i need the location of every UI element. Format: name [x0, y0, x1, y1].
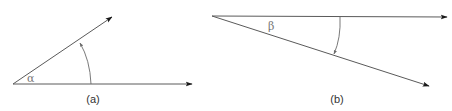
caption-b: (b)	[330, 93, 343, 105]
panel-a: α (a)	[13, 17, 192, 105]
angle-arc-a	[80, 43, 91, 84]
angle-symbol-beta: β	[268, 20, 274, 33]
panel-b: β (b)	[212, 16, 447, 105]
angle-arc-b	[334, 17, 340, 54]
angle-diagram: α (a) β (b)	[0, 0, 452, 111]
declined-ray-b	[212, 16, 429, 86]
caption-a: (a)	[86, 93, 99, 105]
angle-symbol-alpha: α	[27, 72, 35, 85]
horizontal-ray-b	[212, 16, 447, 17]
